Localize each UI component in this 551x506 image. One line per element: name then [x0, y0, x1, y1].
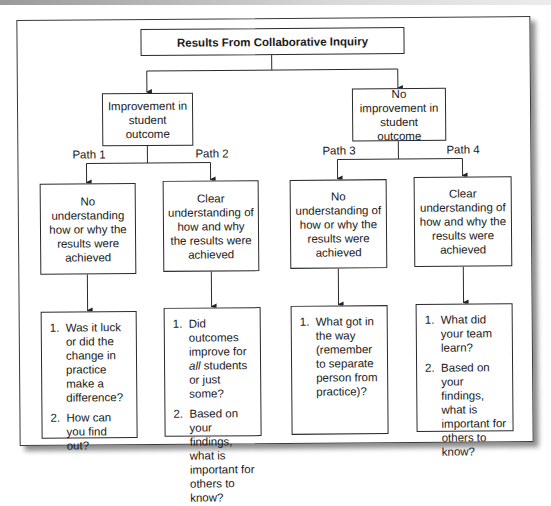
question-item: 1. Was it luck or did the change in prac… — [50, 320, 131, 405]
path-3-label: Path 3 — [322, 144, 355, 156]
question-number: 1. — [173, 317, 190, 401]
path-4-label: Path 4 — [446, 143, 479, 155]
branch-label: Improvement in student outcome — [107, 98, 188, 141]
question-list: 1. What did your team learn? 2. Based on… — [417, 304, 513, 459]
question-number: 2. — [50, 411, 66, 453]
question-item: 2. Based on your findings, what is impor… — [425, 360, 507, 459]
question-text-emphasis: all — [189, 360, 201, 372]
question-number: 1. — [300, 315, 317, 399]
understanding-text: Clear understanding of how and why the r… — [168, 191, 255, 262]
title-box: Results From Collaborative Inquiry — [140, 27, 404, 56]
question-text: What got in the way (remember to separat… — [316, 314, 382, 399]
flowchart: Results From Collaborative Inquiry Impro… — [0, 0, 551, 463]
path-3-understanding-box: No understanding of how or why the resul… — [290, 179, 388, 269]
diagram-title: Results From Collaborative Inquiry — [177, 34, 368, 50]
question-item: 2. Based on your findings, what is impor… — [173, 406, 255, 505]
understanding-text: Clear understanding of how and why the r… — [419, 186, 508, 257]
question-item: 1. What got in the way (remember to sepa… — [300, 314, 382, 399]
question-number: 2. — [425, 361, 442, 459]
path-4-questions-box: 1. What did your team learn? 2. Based on… — [416, 303, 514, 432]
path-4-understanding-box: Clear understanding of how and why the r… — [414, 176, 513, 267]
question-text: Did outcomes improve for all students or… — [189, 316, 255, 401]
question-list: 1. What got in the way (remember to sepa… — [292, 306, 388, 399]
question-text: Based on your findings, what is importan… — [189, 406, 255, 505]
branch-improvement-box: Improvement in student outcome — [102, 93, 193, 147]
branch-label: No improvement in student outcome — [357, 86, 441, 143]
path-1-questions-box: 1. Was it luck or did the change in prac… — [41, 311, 138, 439]
path-1-label: Path 1 — [72, 148, 105, 160]
question-text: Based on your findings, what is importan… — [441, 360, 507, 459]
understanding-text: No understanding how or why the results … — [45, 194, 132, 265]
path-2-label: Path 2 — [195, 147, 228, 159]
question-text-pre: Did outcomes improve for — [189, 318, 247, 358]
question-number: 2. — [173, 407, 190, 505]
path-1-understanding-box: No understanding how or why the results … — [40, 183, 137, 275]
question-number: 1. — [425, 313, 441, 355]
question-text: Was it luck or did the change in practic… — [66, 320, 131, 405]
question-text: What did your team learn? — [441, 312, 506, 355]
question-item: 1. What did your team learn? — [425, 312, 506, 355]
question-item: 2. How can you find out? — [50, 410, 130, 453]
path-3-questions-box: 1. What got in the way (remember to sepa… — [291, 305, 389, 435]
path-2-understanding-box: Clear understanding of how and why the r… — [163, 180, 260, 272]
question-number: 1. — [50, 321, 67, 405]
question-list: 1. Did outcomes improve for all students… — [165, 308, 262, 505]
branch-no-improvement-box: No improvement in student outcome — [352, 88, 446, 142]
understanding-text: No understanding of how or why the resul… — [295, 189, 383, 260]
path-2-questions-box: 1. Did outcomes improve for all students… — [164, 307, 262, 437]
question-list: 1. Was it luck or did the change in prac… — [42, 312, 137, 453]
question-item: 1. Did outcomes improve for all students… — [173, 316, 255, 401]
question-text: How can you find out? — [66, 410, 130, 453]
